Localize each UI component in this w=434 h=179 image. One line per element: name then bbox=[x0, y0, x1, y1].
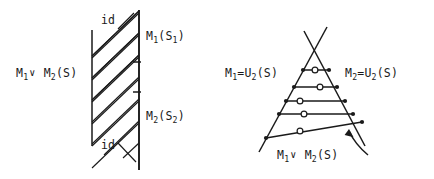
label-m2-s2: M2(S2) bbox=[146, 111, 185, 123]
rung-endpoint-dot bbox=[360, 120, 364, 124]
rung-ring bbox=[301, 111, 307, 117]
label-left-union-arg: (S) bbox=[56, 66, 77, 80]
right-diagram-group bbox=[259, 27, 368, 155]
label-left-union-base-b: M bbox=[44, 66, 51, 80]
label-m1-s1-arg-close: ) bbox=[178, 29, 185, 43]
rung-endpoint-dot bbox=[292, 85, 296, 89]
label-m2-eq-u2-sub: 2 bbox=[352, 72, 357, 82]
figure-canvas: M1∨ M2(S) M1(S1) M2(S2) id id M1=U2(S) M… bbox=[0, 0, 434, 179]
label-bottom-union-operator: ∨ bbox=[289, 149, 297, 160]
label-m2-s2-arg-close: ) bbox=[178, 109, 185, 123]
label-m1-s1: M1(S1) bbox=[146, 31, 185, 43]
rung-endpoint-dot bbox=[335, 85, 339, 89]
label-bottom-union: M1∨ M2(S) bbox=[277, 150, 338, 162]
label-m2-eq-u2-arg: (S) bbox=[377, 66, 398, 80]
ascending-strand bbox=[92, 11, 139, 56]
label-m2-s2-arg-sub: 2 bbox=[173, 115, 178, 125]
crossing-strand bbox=[92, 101, 139, 146]
annotation-arrowhead bbox=[345, 129, 354, 137]
label-m2-eq-u2-u-sub: 2 bbox=[372, 72, 377, 82]
diagram-vector-layer bbox=[0, 0, 434, 179]
crossing-strand bbox=[92, 79, 139, 124]
rung-ring bbox=[312, 67, 318, 73]
ascending-strand bbox=[92, 33, 139, 78]
label-m1-eq-u2-sub: 1 bbox=[232, 72, 237, 82]
label-m2-eq-u2-u: U bbox=[364, 66, 371, 80]
label-id-bottom: id bbox=[101, 140, 115, 152]
rung-endpoint-dot bbox=[327, 68, 331, 72]
ascending-strand-bundle bbox=[92, 11, 139, 100]
rung-ring bbox=[297, 98, 303, 104]
label-m1-s1-sub: 1 bbox=[153, 35, 158, 45]
label-left-union: M1∨ M2(S) bbox=[16, 68, 77, 80]
label-m1-eq-u2: M1=U2(S) bbox=[225, 68, 278, 80]
rung-endpoint-dot bbox=[284, 99, 288, 103]
descending-strand bbox=[92, 77, 139, 122]
rung-endpoint-dot bbox=[264, 136, 268, 140]
ascending-strand bbox=[92, 55, 139, 100]
label-m1-eq-u2-u: U bbox=[244, 66, 251, 80]
label-m2-eq-u2: M2=U2(S) bbox=[345, 68, 398, 80]
label-left-union-sub-b: 2 bbox=[51, 72, 56, 82]
cone-right-leg bbox=[304, 31, 365, 146]
left-diagram-group bbox=[92, 10, 141, 170]
top-id-connector bbox=[118, 13, 134, 29]
descending-strand bbox=[92, 99, 139, 144]
crossing-strand bbox=[92, 57, 139, 102]
rung-endpoint-dot bbox=[301, 68, 305, 72]
rung-group bbox=[266, 70, 362, 138]
crossing-strand bbox=[92, 123, 139, 168]
label-left-union-operator: ∨ bbox=[28, 67, 36, 78]
label-m1-eq-u2-u-sub: 2 bbox=[252, 72, 257, 82]
rung-endpoint-dot bbox=[277, 112, 281, 116]
label-id-top: id bbox=[101, 15, 115, 27]
rung-ring bbox=[297, 128, 303, 134]
bottom-id-connector bbox=[118, 143, 136, 162]
rung-endpoint-dot bbox=[343, 99, 347, 103]
label-m1-eq-u2-arg: (S) bbox=[257, 66, 278, 80]
label-m2-s2-arg-open: (S bbox=[158, 109, 172, 123]
rung-endpoint-dot bbox=[351, 112, 355, 116]
label-m2-s2-sub: 2 bbox=[153, 115, 158, 125]
crossing-strand bbox=[92, 13, 139, 58]
label-bottom-union-base-b: M bbox=[305, 148, 312, 162]
label-m1-s1-arg-sub: 1 bbox=[173, 35, 178, 45]
label-m1-s1-arg-open: (S bbox=[158, 29, 172, 43]
label-bottom-union-sub-b: 2 bbox=[312, 154, 317, 164]
crossing-strand-bundle bbox=[92, 13, 139, 168]
rung-ring bbox=[317, 84, 323, 90]
label-bottom-union-arg: (S) bbox=[317, 148, 338, 162]
crossing-strand bbox=[92, 35, 139, 80]
